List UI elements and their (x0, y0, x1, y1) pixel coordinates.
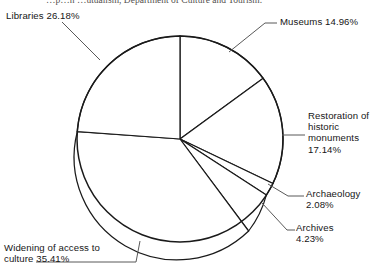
pie-slice-libraries[interactable] (77, 36, 180, 139)
pie-label-restoration-of-historic-monuments: Restoration of historic monuments 17.14% (308, 110, 372, 155)
pie-label-archaeology: Archaeology 2.08% (306, 188, 374, 210)
pie-label-libraries: Libraries 26.18% (6, 10, 80, 21)
leader-line-archaeology (268, 184, 304, 196)
pie-label-widening-of-access-to-culture: Widening of access to culture 35.41% (4, 242, 144, 264)
leader-line-museums (229, 23, 277, 52)
pie-label-museums: Museums 14.96% (280, 16, 358, 27)
pie-label-archives: Archives 4.23% (296, 222, 366, 244)
leader-line-libraries (62, 22, 100, 60)
leader-line-archives (262, 203, 295, 230)
pie-slices (74, 36, 283, 260)
pie-chart-figure: …p…n …utualism, Department of Culture an… (0, 0, 374, 276)
